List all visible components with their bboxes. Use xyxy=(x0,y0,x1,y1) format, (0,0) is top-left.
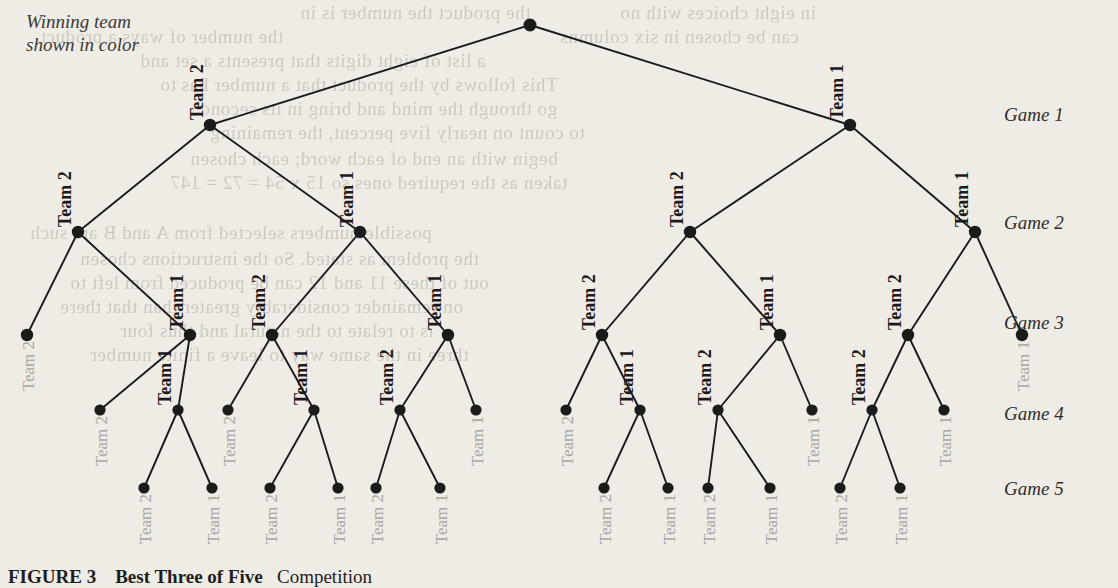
tree-node[interactable] xyxy=(222,404,233,415)
node-team-label: Team 2 xyxy=(885,274,905,330)
node-team-label: Team 1 xyxy=(330,494,349,544)
node-team-label: Team 2 xyxy=(377,349,397,405)
node-team-label: Team 2 xyxy=(579,274,599,330)
tree-node[interactable] xyxy=(524,19,537,32)
tree-edge xyxy=(400,335,448,410)
tree-edge xyxy=(872,410,900,488)
tree-edge xyxy=(78,125,210,232)
tree-edge xyxy=(640,410,668,488)
node-team-label: Team 2 xyxy=(667,171,687,227)
node-team-label: Team 2 xyxy=(136,494,155,544)
tree-edge xyxy=(100,335,190,410)
tree-node[interactable] xyxy=(172,404,183,415)
tree-nodes: Team 2Team 1Team 2Team 1Team 2Team 1Team… xyxy=(19,19,1033,545)
node-team-label: Team 1 xyxy=(827,64,847,120)
tournament-tree: Team 2Team 1Team 2Team 1Team 2Team 1Team… xyxy=(0,0,1118,588)
tree-edges xyxy=(27,25,1022,488)
node-team-label: Team 1 xyxy=(432,494,451,544)
round-label-game-1: Game 1 xyxy=(1004,104,1064,126)
node-team-label: Team 2 xyxy=(249,274,269,330)
node-team-label: Team 1 xyxy=(204,494,223,544)
tree-edge xyxy=(718,335,780,410)
round-label-game-4: Game 4 xyxy=(1004,403,1064,425)
node-team-label: Team 2 xyxy=(849,349,869,405)
node-team-label: Team 2 xyxy=(596,494,615,544)
node-team-label: Team 2 xyxy=(55,171,75,227)
node-team-label: Team 1 xyxy=(804,416,823,466)
winning-team-note: Winning team shown in color xyxy=(26,10,139,56)
node-team-label: Team 1 xyxy=(337,171,357,227)
tree-node[interactable] xyxy=(712,404,723,415)
tree-edge xyxy=(840,410,872,488)
tree-edge xyxy=(530,25,850,125)
tree-node[interactable] xyxy=(702,482,713,493)
node-team-label: Team 2 xyxy=(368,494,387,544)
figure-caption-rest: Competition xyxy=(277,566,372,587)
tree-edge xyxy=(272,232,360,335)
node-team-label: Team 1 xyxy=(617,349,637,405)
tree-node[interactable] xyxy=(894,482,905,493)
tree-edge xyxy=(178,335,190,410)
tree-node[interactable] xyxy=(138,482,149,493)
tree-node[interactable] xyxy=(598,482,609,493)
round-label-game-3: Game 3 xyxy=(1004,312,1064,334)
node-team-label: Team 1 xyxy=(936,416,955,466)
tree-node[interactable] xyxy=(370,482,381,493)
tree-node[interactable] xyxy=(332,482,343,493)
node-team-label: Team 1 xyxy=(167,274,187,330)
tree-edge xyxy=(27,232,78,335)
tree-edge xyxy=(908,232,975,335)
node-team-label: Team 1 xyxy=(660,494,679,544)
tree-node[interactable] xyxy=(434,482,445,493)
tree-node[interactable] xyxy=(764,482,775,493)
tree-node[interactable] xyxy=(866,404,877,415)
tree-edge xyxy=(780,335,812,410)
tree-edge xyxy=(270,410,314,488)
tree-node[interactable] xyxy=(834,482,845,493)
tree-node[interactable] xyxy=(264,482,275,493)
tree-node[interactable] xyxy=(560,404,571,415)
tree-node[interactable] xyxy=(938,404,949,415)
tree-node[interactable] xyxy=(806,404,817,415)
tree-edge xyxy=(448,335,476,410)
node-team-label: Team 1 xyxy=(155,349,175,405)
tree-node[interactable] xyxy=(470,404,481,415)
tree-edge xyxy=(908,335,944,410)
tree-edge xyxy=(228,335,272,410)
tree-edge xyxy=(400,410,440,488)
tree-edge xyxy=(144,410,178,488)
tree-edge xyxy=(314,410,338,488)
round-label-game-2: Game 2 xyxy=(1004,212,1064,234)
node-team-label: Team 2 xyxy=(700,494,719,544)
tree-node[interactable] xyxy=(94,404,105,415)
tree-node[interactable] xyxy=(308,404,319,415)
tree-node[interactable] xyxy=(662,482,673,493)
node-team-label: Team 2 xyxy=(187,64,207,120)
tree-edge xyxy=(210,25,530,125)
node-team-label: Team 2 xyxy=(19,341,38,391)
tree-node[interactable] xyxy=(634,404,645,415)
node-team-label: Team 2 xyxy=(558,416,577,466)
node-team-label: Team 2 xyxy=(262,494,281,544)
tree-node[interactable] xyxy=(394,404,405,415)
tree-edge xyxy=(872,335,908,410)
tree-node[interactable] xyxy=(21,329,33,341)
tree-edge xyxy=(718,410,770,488)
node-team-label: Team 1 xyxy=(892,494,911,544)
node-team-label: Team 1 xyxy=(952,171,972,227)
node-team-label: Team 2 xyxy=(832,494,851,544)
node-team-label: Team 2 xyxy=(695,349,715,405)
figure-page: the product the number is inin eight cho… xyxy=(0,0,1118,588)
tree-node[interactable] xyxy=(206,482,217,493)
node-team-label: Team 1 xyxy=(762,494,781,544)
node-team-label: Team 1 xyxy=(1014,341,1033,391)
note-line-2: shown in color xyxy=(26,33,139,56)
round-label-game-5: Game 5 xyxy=(1004,478,1064,500)
node-team-label: Team 1 xyxy=(468,416,487,466)
node-team-label: Team 1 xyxy=(291,349,311,405)
figure-caption-title: Best Three of Five xyxy=(115,566,263,587)
tree-edge xyxy=(566,335,602,410)
tree-edge xyxy=(690,125,850,232)
node-team-label: Team 2 xyxy=(92,416,111,466)
node-team-label: Team 1 xyxy=(757,274,777,330)
